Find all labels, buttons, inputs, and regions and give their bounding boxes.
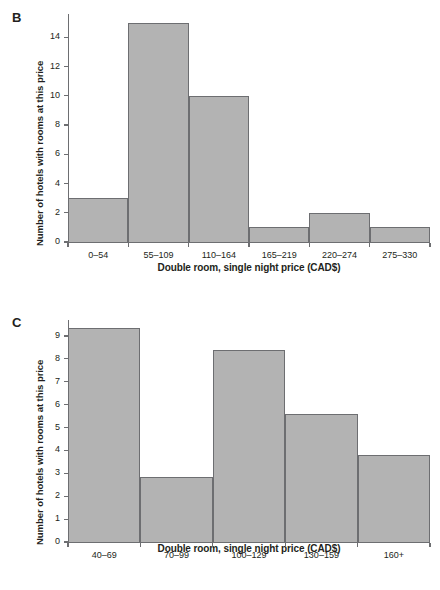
y-tick-label: 1 bbox=[38, 513, 60, 523]
plot-area-c: 012345678940–6970–99100–129130–159160+ bbox=[68, 320, 430, 542]
x-tick-label: 130–159 bbox=[285, 550, 357, 560]
x-tick-mark bbox=[369, 243, 370, 247]
y-tick-label: 4 bbox=[38, 178, 60, 188]
x-axis-title-b: Double room, single night price (CAD$) bbox=[68, 262, 430, 273]
x-tick-label: 40–69 bbox=[68, 550, 140, 560]
panel-c: C Number of hotels with rooms at this pr… bbox=[0, 295, 440, 590]
y-tick-label: 6 bbox=[38, 399, 60, 409]
y-tick-label: 3 bbox=[38, 467, 60, 477]
x-tick-mark bbox=[357, 543, 358, 547]
histogram-bar bbox=[140, 477, 212, 543]
histogram-bar bbox=[370, 227, 430, 243]
histogram-bar bbox=[249, 227, 309, 243]
x-tick-label: 70–99 bbox=[140, 550, 212, 560]
y-tick-mark bbox=[64, 37, 68, 38]
plot-area-b: 024681012140–5455–109110–164165–219220–2… bbox=[68, 14, 430, 242]
panel-b: B Number of hotels with rooms at this pr… bbox=[0, 0, 440, 295]
y-tick-label: 2 bbox=[38, 490, 60, 500]
x-tick-mark bbox=[429, 243, 430, 247]
y-tick-mark bbox=[64, 124, 68, 125]
y-tick-mark bbox=[64, 154, 68, 155]
x-tick-label: 110–164 bbox=[189, 250, 249, 260]
histogram-bar bbox=[68, 198, 128, 243]
histogram-bar bbox=[68, 328, 140, 543]
x-tick-label: 160+ bbox=[358, 550, 430, 560]
y-tick-mark bbox=[64, 95, 68, 96]
histogram-bar bbox=[189, 96, 249, 243]
y-tick-label: 5 bbox=[38, 422, 60, 432]
x-tick-label: 165–219 bbox=[249, 250, 309, 260]
panel-letter-b: B bbox=[12, 10, 22, 25]
y-tick-label: 4 bbox=[38, 444, 60, 454]
y-tick-label: 8 bbox=[38, 353, 60, 363]
x-tick-label: 275–330 bbox=[370, 250, 430, 260]
x-tick-mark bbox=[309, 243, 310, 247]
x-tick-mark bbox=[67, 243, 68, 247]
histogram-bar bbox=[285, 414, 357, 543]
y-tick-label: 6 bbox=[38, 148, 60, 158]
x-tick-label: 0–54 bbox=[68, 250, 128, 260]
y-tick-label: 8 bbox=[38, 119, 60, 129]
y-tick-label: 12 bbox=[38, 61, 60, 71]
y-tick-mark bbox=[64, 66, 68, 67]
x-tick-mark bbox=[285, 543, 286, 547]
y-tick-label: 10 bbox=[38, 90, 60, 100]
x-tick-label: 100–129 bbox=[213, 550, 285, 560]
x-tick-mark bbox=[429, 543, 430, 547]
x-tick-mark bbox=[248, 243, 249, 247]
x-tick-mark bbox=[188, 243, 189, 247]
y-tick-label: 0 bbox=[38, 536, 60, 546]
panel-letter-c: C bbox=[12, 315, 22, 330]
histogram-bar bbox=[213, 350, 285, 543]
y-tick-label: 0 bbox=[38, 236, 60, 246]
y-tick-label: 2 bbox=[38, 207, 60, 217]
y-tick-mark bbox=[64, 183, 68, 184]
x-tick-mark bbox=[67, 543, 68, 547]
y-tick-label: 9 bbox=[38, 330, 60, 340]
x-tick-mark bbox=[212, 543, 213, 547]
x-tick-mark bbox=[140, 543, 141, 547]
x-tick-label: 55–109 bbox=[128, 250, 188, 260]
histogram-bar bbox=[358, 455, 430, 543]
x-tick-mark bbox=[128, 243, 129, 247]
histogram-bar bbox=[128, 23, 188, 243]
y-tick-label: 14 bbox=[38, 31, 60, 41]
y-tick-label: 7 bbox=[38, 376, 60, 386]
histogram-bar bbox=[309, 213, 369, 243]
x-tick-label: 220–274 bbox=[309, 250, 369, 260]
